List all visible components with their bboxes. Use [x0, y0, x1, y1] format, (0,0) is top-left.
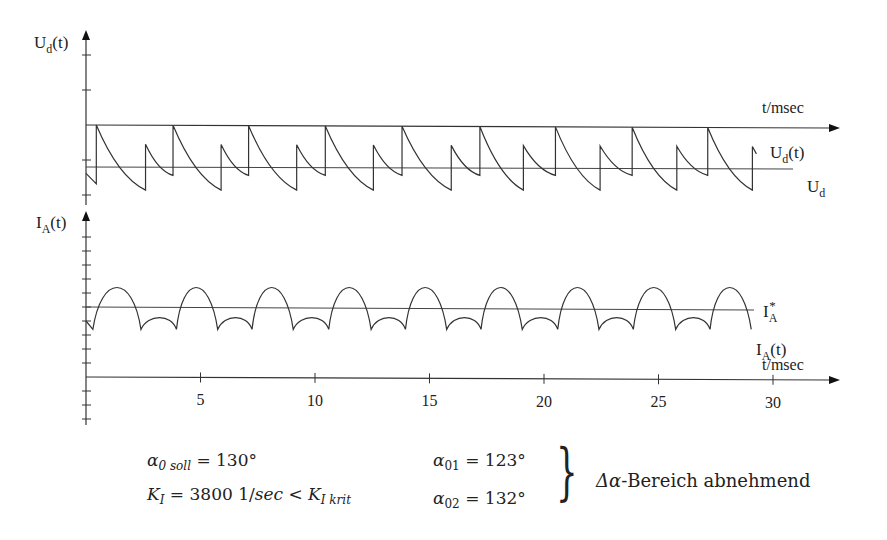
- x-tick-label: 30: [765, 394, 781, 411]
- alpha-symbol: α: [147, 450, 158, 470]
- delta-alpha-symbol: Δα: [596, 470, 621, 491]
- ud-waveform: [86, 125, 756, 190]
- ki-subscript: I: [160, 493, 165, 507]
- ki-krit-subscript: I krit: [321, 493, 351, 507]
- x-tick-label: 5: [197, 391, 205, 408]
- ki-unit: sec: [255, 484, 283, 504]
- lower-x-axis-arrow-icon: [829, 376, 840, 384]
- ki-symbol: K: [147, 484, 160, 504]
- ud-t-series-label: Ud(t): [770, 143, 804, 166]
- lower-y-label: IA(t): [36, 213, 66, 236]
- alpha-01-symbol: α: [433, 450, 444, 470]
- alpha-01-formula: α01 = 123°: [433, 450, 526, 473]
- right-brace-icon: }: [556, 441, 578, 503]
- conclusion-text: Δα-Bereich abnehmend: [596, 470, 810, 491]
- ki-krit-symbol: K: [308, 484, 321, 504]
- alpha-02-symbol: α: [433, 488, 444, 508]
- alpha-01-value: = 123°: [465, 450, 526, 470]
- ia-reference-line: [86, 307, 754, 310]
- conclusion-label: -Bereich abnehmend: [621, 470, 810, 491]
- upper-x-axis: [86, 125, 830, 128]
- x-tick-label: 15: [422, 392, 438, 409]
- lower-plot: 51015202530 IA(t) t/msec IA* IA(t): [36, 211, 840, 425]
- x-tick-label: 25: [651, 393, 667, 410]
- alpha-01-subscript: 01: [444, 459, 459, 473]
- ia-reference-label: IA*: [763, 298, 778, 325]
- ki-value: = 3800 1/: [170, 484, 255, 504]
- alpha-soll-value: = 130°: [196, 450, 257, 470]
- upper-y-axis-arrow-icon: [82, 30, 90, 40]
- upper-plot: Ud(t) t/msec Ud(t) Ud: [34, 30, 840, 205]
- x-tick-label: 20: [536, 393, 552, 410]
- alpha-soll-formula: α0 soll = 130°: [147, 450, 257, 473]
- alpha-02-formula: α02 = 132°: [433, 488, 526, 511]
- ud-mean-label: Ud: [807, 177, 825, 200]
- upper-x-label: t/msec: [762, 99, 804, 116]
- alpha-02-value: = 132°: [465, 488, 526, 508]
- upper-x-axis-arrow-icon: [829, 124, 840, 132]
- ud-mean-line: [86, 167, 793, 169]
- ki-formula: KI = 3800 1/sec < KI krit: [147, 484, 351, 507]
- lower-x-axis: [86, 377, 830, 380]
- alpha-soll-subscript: 0 soll: [158, 459, 191, 473]
- alpha-02-subscript: 02: [444, 497, 459, 511]
- x-tick-label: 10: [307, 392, 323, 409]
- lower-y-axis-arrow-icon: [82, 211, 90, 221]
- ki-comparator: <: [283, 484, 308, 504]
- upper-y-label: Ud(t): [34, 33, 68, 56]
